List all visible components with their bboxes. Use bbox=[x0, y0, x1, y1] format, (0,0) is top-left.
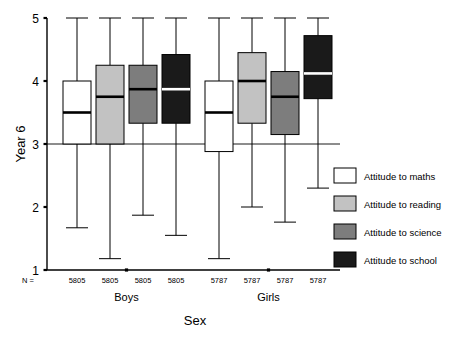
axes-layer bbox=[44, 18, 341, 272]
box-rect bbox=[205, 81, 233, 152]
boxes-layer bbox=[63, 18, 332, 259]
legend-swatch bbox=[334, 168, 356, 183]
group-label: Girls bbox=[257, 291, 280, 303]
y-axis-tick-label: 4 bbox=[32, 75, 39, 89]
n-value-label: 5805 bbox=[102, 276, 119, 285]
box-rect bbox=[304, 36, 332, 99]
box-plot-item bbox=[304, 18, 332, 188]
box-rect bbox=[238, 53, 266, 124]
n-value-label: 5805 bbox=[69, 276, 86, 285]
legend-label: Attitude to maths bbox=[364, 171, 436, 182]
legend-label: Attitude to science bbox=[364, 227, 442, 238]
box-plot-item bbox=[205, 18, 233, 259]
legend-label: Attitude to school bbox=[364, 255, 437, 266]
box-rect bbox=[96, 65, 124, 144]
group-label: Boys bbox=[114, 291, 139, 303]
n-value-label: 5805 bbox=[135, 276, 152, 285]
box-plot-item bbox=[271, 18, 299, 222]
group-axis-marker bbox=[125, 268, 128, 271]
y-axis-title: Year 6 bbox=[13, 125, 28, 162]
n-value-label: 5805 bbox=[168, 276, 185, 285]
y-axis-tick-label: 2 bbox=[32, 201, 39, 215]
n-value-label: 5787 bbox=[211, 276, 228, 285]
legend-swatch bbox=[334, 224, 356, 239]
n-value-label: 5787 bbox=[310, 276, 327, 285]
box-plot-item bbox=[129, 18, 157, 215]
group-axis-marker bbox=[267, 268, 270, 271]
n-value-label: 5787 bbox=[277, 276, 294, 285]
box-plot-item bbox=[238, 18, 266, 207]
legend-label: Attitude to reading bbox=[364, 199, 441, 210]
x-axis-title: Sex bbox=[184, 313, 207, 328]
box-plot-item bbox=[96, 18, 124, 259]
box-plot-item bbox=[63, 18, 91, 228]
legend-layer: Attitude to mathsAttitude to readingAtti… bbox=[334, 168, 442, 267]
legend-swatch bbox=[334, 196, 356, 211]
box-plot-item bbox=[162, 18, 190, 235]
y-axis-tick-label: 3 bbox=[32, 138, 39, 152]
plot-canvas: 123455805580558055805Boys578757875787578… bbox=[0, 0, 452, 339]
y-axis-tick-label: 5 bbox=[32, 12, 39, 26]
boxplot-chart: 123455805580558055805Boys578757875787578… bbox=[0, 0, 452, 339]
n-prefix-label: N = bbox=[22, 276, 35, 285]
legend-swatch bbox=[334, 252, 356, 267]
n-value-label: 5787 bbox=[244, 276, 261, 285]
box-rect bbox=[271, 72, 299, 135]
box-rect bbox=[129, 65, 157, 123]
